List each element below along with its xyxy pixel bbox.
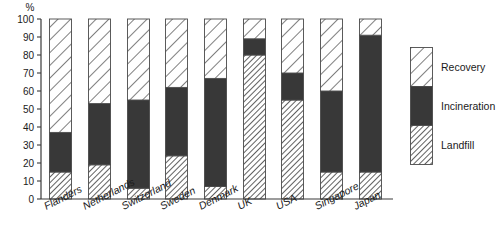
stacked-bar-chart: %0102030405060708090100 FlandersNetherla… [0,0,503,245]
bar-segment-recovery [128,19,150,100]
bar-segment-recovery [321,19,343,91]
legend-swatch-landfill [411,126,433,165]
bar-segment-incineration [89,104,111,165]
bar-segment-incineration [205,78,227,186]
chart-canvas: %0102030405060708090100 FlandersNetherla… [0,0,503,245]
y-axis-tick-label: 50 [23,104,35,115]
bar-group [166,19,188,199]
legend-label-landfill: Landfill [441,139,474,151]
bar-segment-incineration [360,35,382,172]
y-axis-tick-label: 20 [23,158,35,169]
y-axis-tick-label: 60 [23,86,35,97]
bar-segment-incineration [244,39,266,55]
y-axis-unit-label: % [26,2,35,13]
bar-group [282,19,304,199]
bar-group [50,19,72,199]
y-axis-tick-label: 10 [23,176,35,187]
bar-segment-recovery [282,19,304,73]
bar-segment-incineration [50,132,72,172]
bar-segment-recovery [244,19,266,39]
bar-group [89,19,111,199]
legend-swatch-incineration [411,87,433,126]
bar-segment-incineration [128,100,150,188]
bar-group [128,19,150,199]
bar-segment-recovery [166,19,188,87]
legend-swatch-recovery [411,48,433,87]
bar-segment-recovery [205,19,227,78]
y-axis-tick-label: 40 [23,122,35,133]
bar-segment-recovery [50,19,72,132]
y-axis-tick-label: 70 [23,68,35,79]
legend-label-recovery: Recovery [441,61,486,73]
bar-group [360,19,382,199]
y-axis-tick-label: 100 [17,14,34,25]
y-axis-tick-label: 90 [23,32,35,43]
y-axis-tick-label: 80 [23,50,35,61]
legend-label-incineration: Incineration [441,100,495,112]
bar-segment-incineration [282,73,304,100]
bar-segment-recovery [89,19,111,104]
bar-segment-incineration [321,91,343,172]
bar-segment-landfill [282,100,304,199]
bars-group [50,19,382,199]
bar-group [205,19,227,199]
bar-segment-landfill [244,55,266,199]
bar-segment-incineration [166,87,188,155]
y-axis-tick-label: 0 [28,194,34,205]
y-axis-tick-label: 30 [23,140,35,151]
bar-segment-recovery [360,19,382,35]
bar-group [244,19,266,199]
bar-group [321,19,343,199]
